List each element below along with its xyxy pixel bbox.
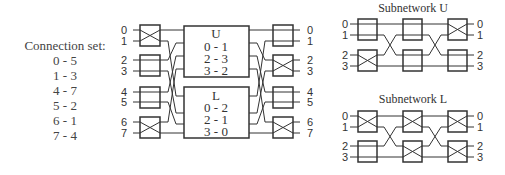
straight-icon [358,24,377,35]
input-stubs [133,30,140,133]
cross-icon [403,146,422,157]
input-switch-3 [140,117,160,138]
input-label: 1 [121,35,127,47]
output-label: 7 [307,127,313,139]
straight-icon [140,60,160,71]
cross-icon [358,55,377,66]
input-label: 1 [342,121,348,133]
upper-subnetwork-block: U 0 - 1 2 - 3 3 - 2 [184,26,249,78]
subnetwork-l: Subnetwork L 0 1 2 3 0 1 2 3 [342,92,483,163]
shuffle-wires [422,24,448,66]
output-switch-0 [273,25,293,46]
switch [403,50,422,71]
output-switch-1 [273,55,293,76]
switch [358,19,377,40]
subnetwork-u: Subnetwork U 0 1 2 3 0 1 2 3 [342,1,483,72]
main-input-labels: 0 1 2 3 4 5 6 7 [121,24,127,139]
right-shuffle-wires [249,30,273,133]
input-switch-2 [140,87,160,108]
straight-icon [358,146,377,157]
input-label: 3 [121,65,127,77]
cross-icon [140,122,160,133]
output-switch-3 [273,117,293,138]
output-label: 1 [477,121,483,133]
straight-icon [403,24,422,35]
input-label: 1 [342,29,348,41]
switch [358,141,377,162]
output-stubs [293,30,300,133]
cross-icon [273,60,293,71]
cross-icon [448,24,467,35]
straight-icon [448,55,467,66]
input-switch-0 [140,25,160,46]
output-label: 3 [307,65,313,77]
cross-icon [448,116,467,127]
main-output-labels: 0 1 2 3 4 5 6 7 [307,24,313,139]
block-pair: 3 - 2 [204,63,228,78]
lower-subnetwork-block: L 0 - 2 2 - 1 3 - 0 [184,87,249,139]
switch [403,19,422,40]
cross-icon [358,116,377,127]
straight-icon [140,92,160,102]
main-network: 0 1 2 3 4 5 6 7 [121,24,313,139]
cross-icon [448,146,467,157]
block-pair: 3 - 0 [204,124,228,139]
cross-icon [140,30,160,41]
straight-icon [403,55,422,66]
cross-icon [403,116,422,127]
output-label: 3 [477,60,483,72]
shuffle-wires [422,116,448,157]
cross-icon [273,122,293,133]
shuffle-wires [377,24,403,66]
input-switch-1 [140,55,160,76]
output-switch-2 [273,87,293,108]
input-label: 3 [342,151,348,163]
switch [448,50,467,71]
input-label: 3 [342,60,348,72]
subnetwork-u-title: Subnetwork U [378,1,448,15]
shuffle-wires [377,116,403,157]
left-shuffle-wires [160,30,184,133]
input-label: 5 [121,96,127,108]
input-label: 7 [121,127,127,139]
straight-icon [273,92,293,102]
benes-network-diagram: 0 1 2 3 4 5 6 7 [0,0,505,175]
output-label: 5 [307,96,313,108]
output-label: 3 [477,151,483,163]
output-label: 1 [477,29,483,41]
subnetwork-l-title: Subnetwork L [379,92,447,106]
output-label: 1 [307,35,313,47]
straight-icon [273,30,293,41]
